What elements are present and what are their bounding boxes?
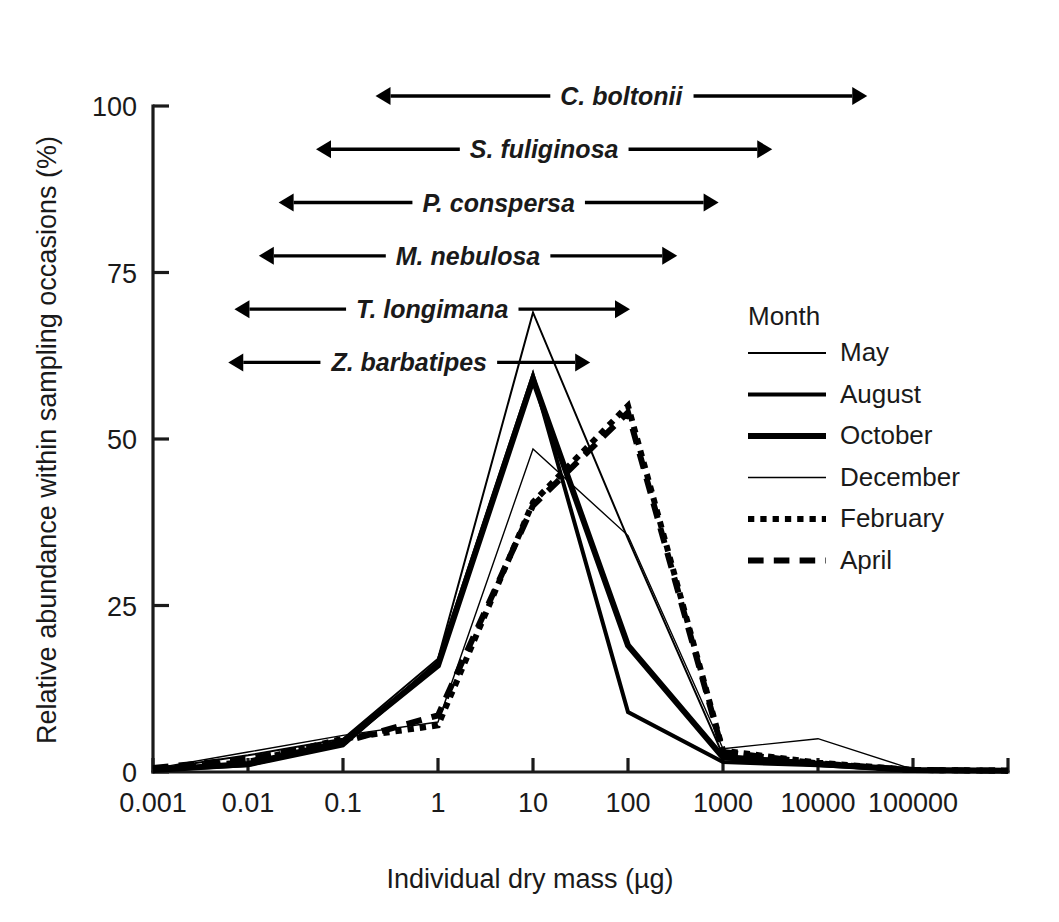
legend-label: May	[840, 337, 889, 367]
y-tick-label: 100	[92, 92, 137, 122]
x-axis-title: Individual dry mass (µg)	[386, 864, 673, 894]
legend-label: August	[840, 379, 922, 409]
legend-label: April	[840, 545, 892, 575]
species-label: Z. barbatipes	[330, 348, 487, 376]
y-tick-label: 25	[107, 592, 137, 622]
y-tick-label: 75	[107, 259, 137, 289]
x-tick-label: 10000	[780, 788, 855, 818]
x-tick-label: 0.1	[324, 788, 362, 818]
species-label: M. nebulosa	[396, 242, 541, 270]
x-axis-tick-labels: 0.0010.010.1110100100010000100000	[119, 788, 958, 818]
species-label: S. fuliginosa	[470, 135, 619, 163]
legend-label: February	[840, 503, 944, 533]
abundance-vs-dry-mass-chart: Relative abundance within sampling occas…	[0, 0, 1059, 922]
x-tick-label: 0.001	[119, 788, 187, 818]
legend-label: December	[840, 462, 960, 492]
y-axis-title: Relative abundance within sampling occas…	[32, 136, 62, 744]
x-tick-label: 1	[430, 788, 445, 818]
species-label: C. boltonii	[560, 82, 683, 110]
figure-container: Relative abundance within sampling occas…	[0, 0, 1059, 922]
x-tick-label: 1000	[693, 788, 753, 818]
species-label: T. longimana	[356, 295, 508, 323]
x-tick-label: 100	[605, 788, 650, 818]
y-tick-label: 0	[122, 758, 137, 788]
y-tick-label: 50	[107, 425, 137, 455]
legend-label: October	[840, 420, 933, 450]
x-tick-label: 100000	[868, 788, 958, 818]
species-label: P. conspersa	[422, 189, 575, 217]
x-tick-label: 10	[518, 788, 548, 818]
legend-title: Month	[748, 301, 820, 331]
x-tick-label: 0.01	[222, 788, 275, 818]
